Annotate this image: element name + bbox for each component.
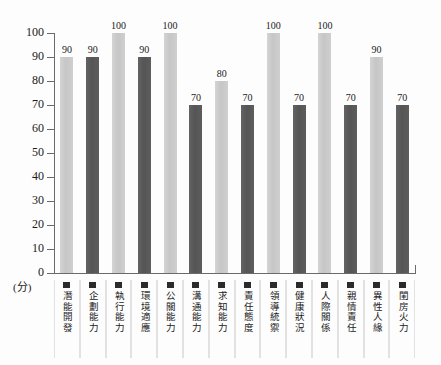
- bar: [60, 57, 73, 273]
- bar: [138, 57, 151, 273]
- bar-column: 90: [138, 57, 151, 273]
- bar-column: 90: [60, 57, 73, 273]
- bar: [215, 81, 228, 273]
- category-label-text: 求知能力: [216, 291, 227, 333]
- bar-value-label: 70: [397, 92, 407, 103]
- category-label-cell: 閨房火力: [389, 280, 415, 358]
- category-label-cell: 溝通能力: [183, 280, 209, 358]
- bar: [370, 57, 383, 273]
- legend-swatch-icon: [192, 282, 199, 288]
- legend-swatch-icon: [296, 282, 303, 288]
- bar-value-label: 70: [294, 92, 304, 103]
- bar-column: 100: [164, 33, 177, 273]
- bar-value-label: 100: [317, 20, 332, 31]
- category-label-text: 異性人緣: [371, 291, 382, 333]
- category-label-text: 潛能開發: [62, 291, 73, 333]
- legend-swatch-icon: [244, 282, 251, 288]
- category-label-cell: 執行能力: [106, 280, 132, 358]
- bar: [241, 105, 254, 273]
- category-label-text: 執行能力: [113, 291, 124, 333]
- bar-value-label: 90: [372, 44, 382, 55]
- bar-value-label: 100: [163, 20, 178, 31]
- legend-swatch-icon: [89, 282, 96, 288]
- bar-chart: 1009080706050403020100 (分) 9090100901007…: [0, 0, 441, 365]
- bar: [344, 105, 357, 273]
- legend-swatch-icon: [141, 282, 148, 288]
- bar-value-label: 70: [346, 92, 356, 103]
- bar: [396, 105, 409, 273]
- bar-value-label: 100: [266, 20, 281, 31]
- category-label-cell: 領導統禦: [260, 280, 286, 358]
- bar-column: 70: [344, 105, 357, 273]
- category-label-text: 健康狀況: [294, 291, 305, 333]
- category-label-cell: 公關能力: [157, 280, 183, 358]
- category-label-text: 親情責任: [345, 291, 356, 333]
- bar-value-label: 70: [243, 92, 253, 103]
- category-label-text: 責任態度: [242, 291, 253, 333]
- category-label-cell: 潛能開發: [54, 280, 80, 358]
- legend-swatch-icon: [167, 282, 174, 288]
- bar-value-label: 90: [62, 44, 72, 55]
- bar-column: 80: [215, 81, 228, 273]
- bar-value-label: 100: [111, 20, 126, 31]
- legend-swatch-icon: [399, 282, 406, 288]
- category-labels-strip: 潛能開發企劃能力執行能力環境適應公關能力溝通能力求知能力責任態度領導統禦健康狀況…: [54, 280, 416, 358]
- bar: [318, 33, 331, 273]
- bar: [112, 33, 125, 273]
- bar-column: 70: [396, 105, 409, 273]
- bar-column: 100: [267, 33, 280, 273]
- bar: [86, 57, 99, 273]
- bar: [293, 105, 306, 273]
- category-label-text: 企劃能力: [87, 291, 98, 333]
- category-label-cell: 企劃能力: [80, 280, 106, 358]
- bar-column: 90: [86, 57, 99, 273]
- category-label-cell: 親情責任: [338, 280, 364, 358]
- bar-value-label: 90: [88, 44, 98, 55]
- category-label-text: 人際關係: [320, 291, 331, 333]
- category-label-cell: 人際關係: [312, 280, 338, 358]
- legend-swatch-icon: [115, 282, 122, 288]
- bar-value-label: 80: [217, 68, 227, 79]
- legend-swatch-icon: [218, 282, 225, 288]
- bar: [189, 105, 202, 273]
- bar: [267, 33, 280, 273]
- category-label-cell: 責任態度: [235, 280, 261, 358]
- bar: [164, 33, 177, 273]
- bar-value-label: 90: [139, 44, 149, 55]
- category-label-text: 環境適應: [139, 291, 150, 333]
- category-label-cell: 健康狀況: [286, 280, 312, 358]
- bar-column: 70: [293, 105, 306, 273]
- category-label-cell: 異性人緣: [364, 280, 390, 358]
- bar-column: 70: [241, 105, 254, 273]
- legend-swatch-icon: [347, 282, 354, 288]
- category-label-text: 閨房火力: [397, 291, 408, 333]
- bar-column: 100: [112, 33, 125, 273]
- category-label-cell: 求知能力: [209, 280, 235, 358]
- category-label-text: 領導統禦: [268, 291, 279, 333]
- legend-swatch-icon: [321, 282, 328, 288]
- legend-swatch-icon: [63, 282, 70, 288]
- legend-swatch-icon: [373, 282, 380, 288]
- bar-column: 90: [370, 57, 383, 273]
- category-label-text: 溝通能力: [191, 291, 202, 333]
- bar-value-label: 70: [191, 92, 201, 103]
- category-label-cell: 環境適應: [131, 280, 157, 358]
- bar-column: 100: [318, 33, 331, 273]
- legend-swatch-icon: [270, 282, 277, 288]
- category-label-text: 公關能力: [165, 291, 176, 333]
- bar-column: 70: [189, 105, 202, 273]
